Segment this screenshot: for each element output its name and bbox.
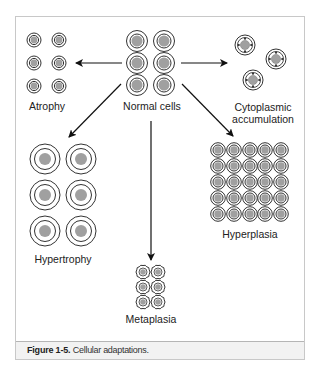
arrow-to-hypertrophy xyxy=(69,84,121,137)
label-metaplasia: Metaplasia xyxy=(116,313,186,325)
normal-cells-group xyxy=(127,31,175,96)
label-atrophy: Atrophy xyxy=(22,100,72,112)
label-normal-cells: Normal cells xyxy=(117,100,187,112)
cytoplasmic-accumulation-cells-group xyxy=(235,35,286,90)
label-hypertrophy: Hypertrophy xyxy=(28,253,98,265)
hypertrophy-cells-group xyxy=(30,144,96,246)
hyperplasia-cells-group xyxy=(211,143,289,222)
metaplasia-cells-group xyxy=(136,265,165,309)
atrophy-cells-group xyxy=(27,33,66,93)
caption-label: Figure 1-5. xyxy=(27,345,70,355)
label-cytoplasmic-line1: Cytoplasmic xyxy=(228,101,298,113)
figure-caption: Figure 1-5. Cellular adaptations. xyxy=(16,341,304,359)
label-hyperplasia: Hyperplasia xyxy=(215,228,285,240)
arrow-to-hyperplasia xyxy=(182,84,233,136)
label-cytoplasmic-line2: accumulation xyxy=(228,113,298,125)
caption-text: Cellular adaptations. xyxy=(73,345,149,355)
